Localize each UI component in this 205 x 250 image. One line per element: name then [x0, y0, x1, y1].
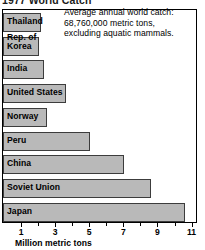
axis-tick-label: 5: [87, 227, 92, 237]
bar-label: Thailand: [7, 17, 43, 26]
bar-label-line: Japan: [7, 206, 32, 216]
axis-tick-label: 11: [187, 227, 196, 237]
bar-label-line: Thailand: [7, 16, 43, 26]
bar-label: Japan: [7, 207, 32, 216]
plot-area: ThailandRep. ofKoreaIndiaUnited StatesNo…: [2, 9, 197, 223]
chart-annotation: Average annual world catch: 68,760,000 m…: [64, 7, 202, 39]
annotation-line-1: Average annual world catch:: [64, 7, 202, 18]
bar-label-line: United States: [7, 87, 63, 97]
annotation-line-2: 68,760,000 metric tons,: [64, 18, 202, 29]
bar-label: Peru: [7, 136, 26, 145]
chart-title-clipped: 1977 World Catch: [2, 0, 192, 5]
bar-label: China: [7, 159, 31, 168]
chart-container: 1977 World Catch ThailandRep. ofKoreaInd…: [0, 0, 205, 250]
bar-label: United States: [7, 88, 63, 97]
bar-label-line: China: [7, 158, 31, 168]
bar-label: Soviet Union: [7, 183, 60, 192]
x-axis-line: [2, 222, 197, 223]
bar-label-line: Peru: [7, 135, 26, 145]
axis-tick: [38, 223, 39, 226]
axis-tick-label: 9: [155, 227, 160, 237]
annotation-line-3: excluding aquatic mammals.: [64, 28, 202, 39]
axis-tick: [175, 223, 176, 226]
bar-label: India: [7, 64, 27, 73]
page-title: 1977 World Catch: [2, 0, 192, 5]
axis-tick: [72, 223, 73, 226]
bar-label: Rep. ofKorea: [7, 33, 36, 52]
bar-series: ThailandRep. ofKoreaIndiaUnited StatesNo…: [3, 10, 198, 224]
x-axis-title: Million metric tons: [15, 238, 92, 248]
axis-tick: [140, 223, 141, 226]
bar-label-line: Norway: [7, 111, 38, 121]
axis-tick-label: 7: [121, 227, 126, 237]
axis-tick: [106, 223, 107, 226]
x-axis: 1357911 Million metric tons: [2, 222, 197, 250]
bar-label-line: Soviet Union: [7, 182, 60, 192]
axis-tick-label: 1: [19, 227, 24, 237]
bar-label-line: Korea: [7, 42, 36, 51]
bar-label-line: India: [7, 63, 27, 73]
axis-tick-label: 3: [53, 227, 58, 237]
bar-label: Norway: [7, 112, 38, 121]
